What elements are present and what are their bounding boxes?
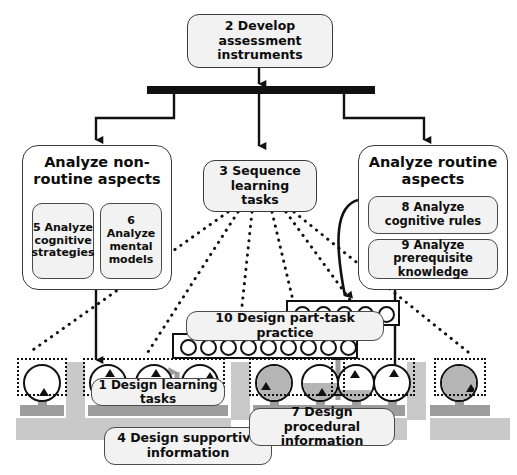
node-analyze-cognitive-strategies[interactable]: 5 Analyze cognitive strategies [32,203,94,279]
panel-analyze-routine-aspects[interactable]: Analyze routine aspects 8 Analyze cognit… [358,145,508,290]
node-label: 2 Develop assessment instruments [196,19,324,62]
panel-title-routine: Analyze routine aspects [359,154,507,187]
node-design-part-task-practice[interactable]: 10 Design part-task practice [186,311,384,341]
node-label: 1 Design learning tasks [98,378,218,406]
practice-circle [260,339,277,356]
diagram-canvas: 2 Develop assessment instruments Analyze… [0,0,517,475]
synchronization-bar [147,86,375,94]
node-analyze-cognitive-rules[interactable]: 8 Analyze cognitive rules [368,196,498,234]
node-label: 4 Design supportive information [113,431,263,461]
node-design-procedural-information[interactable]: 7 Design procedural information [249,408,395,446]
node-label: 3 Sequence learning tasks [212,164,308,207]
node-label: 10 Design part-task practice [195,311,375,341]
node-design-supportive-information[interactable]: 4 Design supportive information [104,427,272,465]
practice-circle [340,339,357,356]
panel-analyze-non-routine-aspects[interactable]: Analyze non-routine aspects 5 Analyze co… [22,145,172,290]
node-label: 8 Analyze cognitive rules [373,201,493,228]
practice-circle [300,339,317,356]
node-analyze-prerequisite-knowledge[interactable]: 9 Analyze prerequisite knowledge [368,239,498,279]
task-group-boundary [434,358,486,396]
task-group-boundary [17,358,67,396]
practice-circle [180,339,197,356]
practice-circle [220,339,237,356]
practice-circle [320,339,337,356]
panel-title-non-routine: Analyze non-routine aspects [23,154,171,187]
node-analyze-mental-models[interactable]: 6 Analyze mental models [100,203,162,279]
node-label: 5 Analyze cognitive strategies [32,222,95,261]
practice-circle [240,339,257,356]
node-label: 6 Analyze mental models [104,215,158,267]
task-group-boundary [331,358,415,396]
practice-circle [200,339,217,356]
node-label: 9 Analyze prerequisite knowledge [373,239,493,280]
node-develop-assessment-instruments[interactable]: 2 Develop assessment instruments [187,14,333,68]
node-design-learning-tasks[interactable]: 1 Design learning tasks [91,378,225,406]
node-sequence-learning-tasks[interactable]: 3 Sequence learning tasks [203,160,317,212]
practice-circle [280,339,297,356]
node-label: 7 Design procedural information [258,405,386,449]
